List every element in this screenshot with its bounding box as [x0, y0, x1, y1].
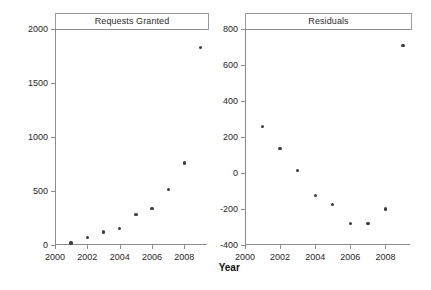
x-tick-left	[152, 245, 153, 249]
y-tick-right	[241, 173, 245, 174]
x-tick-label-left: 2000	[45, 252, 65, 262]
data-point	[69, 241, 72, 244]
y-tick-left	[51, 191, 55, 192]
y-tick-label-right: 800	[187, 24, 238, 34]
data-point	[167, 188, 170, 191]
y-tick-label-right: -400	[187, 240, 238, 250]
plot-frame-right	[245, 29, 410, 245]
y-tick-label-right: 400	[187, 96, 238, 106]
y-tick-label-left: 2000	[0, 24, 48, 34]
data-point	[150, 207, 153, 210]
data-point	[366, 222, 369, 225]
y-tick-left	[51, 137, 55, 138]
x-tick-right	[280, 245, 281, 249]
y-tick-label-right: 200	[187, 132, 238, 142]
y-tick-label-right: -200	[187, 204, 238, 214]
x-tick-label-left: 2006	[142, 252, 162, 262]
data-point	[314, 194, 317, 197]
y-tick-label-left: 500	[0, 186, 48, 196]
y-tick-right	[241, 101, 245, 102]
x-tick-right	[245, 245, 246, 249]
x-tick-left	[184, 245, 185, 249]
x-tick-left	[55, 245, 56, 249]
y-tick-label-right: 0	[187, 168, 238, 178]
x-tick-right	[350, 245, 351, 249]
y-tick-label-left: 1500	[0, 78, 48, 88]
x-tick-label-right: 2006	[340, 252, 360, 262]
x-tick-label-left: 2004	[110, 252, 130, 262]
y-tick-label-left: 1000	[0, 132, 48, 142]
chart-title-requests-granted: Requests Granted	[55, 13, 209, 30]
plot-frame-left	[55, 29, 207, 245]
y-tick-right	[241, 65, 245, 66]
x-tick-right	[385, 245, 386, 249]
y-tick-left	[51, 29, 55, 30]
x-axis-title: Year	[219, 262, 240, 273]
data-point	[384, 207, 387, 210]
y-tick-label-left: 0	[0, 240, 48, 250]
data-point	[183, 161, 186, 164]
chart-panel-residuals: Residuals -400-2000200400600800200020022…	[212, 0, 431, 290]
x-tick-left	[87, 245, 88, 249]
x-tick-label-left: 2002	[77, 252, 97, 262]
data-point	[349, 222, 352, 225]
x-tick-left	[120, 245, 121, 249]
x-tick-label-left: 2008	[174, 252, 194, 262]
chart-title-residuals: Residuals	[245, 13, 412, 30]
y-tick-label-right: 600	[187, 60, 238, 70]
plot-frame-top-right	[245, 29, 410, 30]
y-tick-right	[241, 209, 245, 210]
x-tick-label-right: 2008	[375, 252, 395, 262]
y-tick-right	[241, 137, 245, 138]
y-tick-right	[241, 29, 245, 30]
figure-canvas: Requests Granted 05001000150020002000200…	[0, 0, 431, 290]
data-point	[401, 44, 404, 47]
y-tick-left	[51, 83, 55, 84]
x-tick-label-right: 2004	[305, 252, 325, 262]
data-point	[102, 230, 105, 233]
x-tick-label-right: 2002	[270, 252, 290, 262]
x-tick-label-right: 2000	[235, 252, 255, 262]
x-tick-right	[315, 245, 316, 249]
plot-frame-top-left	[55, 29, 207, 30]
chart-panel-requests-granted: Requests Granted 05001000150020002000200…	[0, 0, 215, 290]
